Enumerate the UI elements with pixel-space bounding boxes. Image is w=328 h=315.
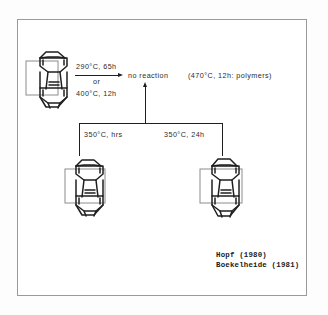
forward-condition-line1: 290°C, 65h xyxy=(76,63,117,70)
figure-frame: 290°C, 65h or 400°C, 12h no reaction (47… xyxy=(17,19,307,296)
forward-condition-line2: 400°C, 12h xyxy=(76,90,117,97)
structure-product-left xyxy=(61,155,117,221)
branch-riser-line xyxy=(145,86,146,123)
branch-riser-arrowhead xyxy=(143,82,147,87)
branch-leg-left xyxy=(79,123,80,156)
citation-boekelheide: Boekelheide (1981) xyxy=(216,260,299,271)
branch-label-left: 350°C, hrs xyxy=(84,131,123,138)
branch-bracket-top xyxy=(79,123,223,124)
branch-label-right: 350°C, 24h xyxy=(164,131,205,138)
reaction-outcome: no reaction xyxy=(128,72,169,79)
forward-condition-or: or xyxy=(93,78,100,85)
branch-leg-right xyxy=(222,123,223,156)
structure-reactant xyxy=(24,47,80,113)
reaction-note: (470°C, 12h: polymers) xyxy=(188,72,272,79)
reaction-arrow-head xyxy=(118,73,123,77)
reaction-arrow-shaft xyxy=(75,75,119,76)
structure-product-right xyxy=(197,155,253,221)
